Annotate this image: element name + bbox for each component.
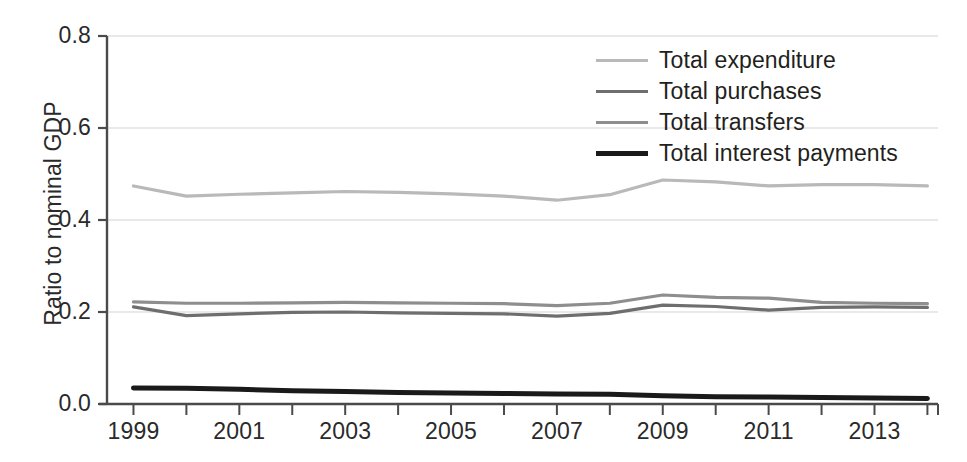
x-tick-label: 2009 — [626, 420, 700, 443]
chart-legend: Total expenditureTotal purchasesTotal tr… — [596, 45, 956, 169]
y-tick-label: 0.0 — [29, 392, 91, 415]
series-line-1 — [133, 305, 927, 316]
chart-figure: Ratio to nominal GDP 0.00.20.40.60.8 199… — [0, 0, 967, 462]
legend-swatch-icon — [596, 151, 648, 156]
legend-label: Total transfers — [659, 111, 805, 134]
legend-item[interactable]: Total transfers — [596, 107, 956, 138]
series-line-3 — [133, 388, 927, 399]
legend-item[interactable]: Total purchases — [596, 76, 956, 107]
y-tick-label: 0.2 — [29, 300, 91, 323]
legend-swatch-icon — [596, 59, 648, 62]
y-tick-label: 0.6 — [29, 116, 91, 139]
x-tick-label: 2013 — [837, 420, 911, 443]
y-tick-label: 0.8 — [29, 24, 91, 47]
legend-swatch-icon — [596, 121, 648, 124]
series-line-2 — [133, 295, 927, 306]
x-tick-label: 2005 — [414, 420, 488, 443]
legend-item[interactable]: Total interest payments — [596, 138, 956, 169]
data-series — [133, 180, 927, 399]
x-tick-label: 2007 — [520, 420, 594, 443]
legend-label: Total interest payments — [659, 142, 898, 165]
x-tick-label: 2001 — [202, 420, 276, 443]
series-line-0 — [133, 180, 927, 200]
legend-label: Total expenditure — [659, 49, 836, 72]
y-tick-label: 0.4 — [29, 208, 91, 231]
x-tick-label: 2011 — [732, 420, 806, 443]
x-tick-label: 2003 — [308, 420, 382, 443]
legend-item[interactable]: Total expenditure — [596, 45, 956, 76]
x-tick-label: 1999 — [96, 420, 170, 443]
legend-label: Total purchases — [659, 80, 822, 103]
legend-swatch-icon — [596, 90, 648, 93]
